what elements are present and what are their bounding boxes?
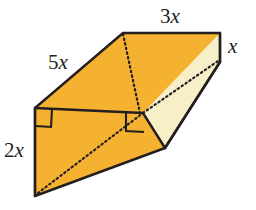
dimension-label-5x: 5x xyxy=(48,52,68,73)
label-5x-variable: x xyxy=(59,50,68,74)
label-5x-coefficient: 5 xyxy=(48,50,59,74)
label-3x-variable: x xyxy=(171,4,180,28)
face-front-triangle xyxy=(35,108,165,196)
dimension-label-3x: 3x xyxy=(160,6,180,27)
triangular-prism-drawing xyxy=(0,0,256,210)
label-3x-coefficient: 3 xyxy=(160,4,171,28)
label-2x-variable: x xyxy=(15,138,24,162)
label-x-variable: x xyxy=(228,34,237,58)
geometry-figure: 3x x 5x 2x xyxy=(0,0,256,210)
dimension-label-2x: 2x xyxy=(4,140,24,161)
dimension-label-x: x xyxy=(228,36,237,57)
label-2x-coefficient: 2 xyxy=(4,138,15,162)
